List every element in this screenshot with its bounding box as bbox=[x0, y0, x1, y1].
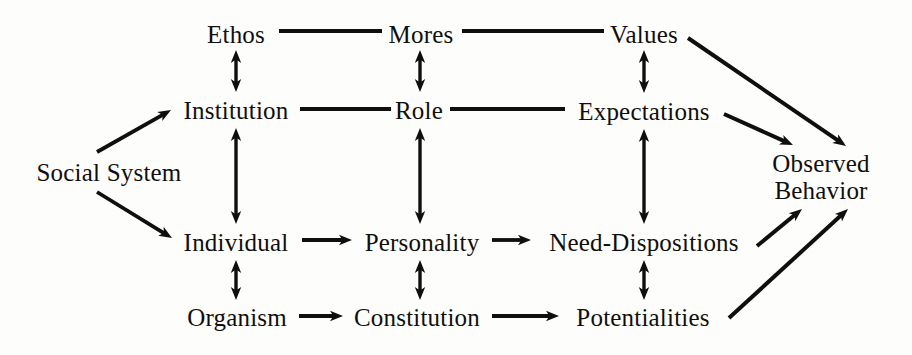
node-observed-behavior: ObservedBehavior bbox=[772, 150, 869, 204]
node-role: Role bbox=[395, 98, 443, 124]
node-label: Constitution bbox=[354, 305, 480, 331]
node-ethos: Ethos bbox=[207, 22, 265, 48]
edge-expectations-to-observed-behavior bbox=[724, 114, 786, 142]
node-organism: Organism bbox=[187, 305, 287, 331]
node-individual: Individual bbox=[184, 230, 289, 256]
node-social-system: Social System bbox=[37, 160, 182, 186]
node-mores: Mores bbox=[389, 22, 454, 48]
edge-social-system-to-institution bbox=[97, 114, 165, 152]
node-label: Behavior bbox=[772, 177, 869, 204]
node-personality: Personality bbox=[365, 230, 480, 256]
node-expectations: Expectations bbox=[578, 99, 710, 125]
edge-need-dispositions-to-observed-behavior bbox=[757, 214, 796, 246]
node-label: Institution bbox=[184, 98, 289, 124]
edge-potentialities-to-observed-behavior bbox=[729, 214, 843, 318]
node-label: Ethos bbox=[207, 22, 265, 48]
node-values: Values bbox=[610, 22, 678, 48]
node-label: Expectations bbox=[578, 99, 710, 125]
node-label: Organism bbox=[187, 305, 287, 331]
social-system-diagram: Social SystemEthosMoresValuesInstitution… bbox=[0, 0, 912, 355]
node-label: Individual bbox=[184, 230, 289, 256]
node-potentialities: Potentialities bbox=[576, 305, 709, 331]
node-label: Role bbox=[395, 98, 443, 124]
node-need-dispositions: Need-Dispositions bbox=[549, 230, 739, 256]
node-label: Personality bbox=[365, 230, 480, 256]
node-label: Potentialities bbox=[576, 305, 709, 331]
edge-social-system-to-individual bbox=[97, 192, 166, 234]
node-label: Social System bbox=[37, 160, 182, 186]
node-label: Need-Dispositions bbox=[549, 230, 739, 256]
node-label: Mores bbox=[389, 22, 454, 48]
node-constitution: Constitution bbox=[354, 305, 480, 331]
node-institution: Institution bbox=[184, 98, 289, 124]
edge-values-to-observed-behavior bbox=[688, 38, 840, 142]
node-label: Values bbox=[610, 22, 678, 48]
node-label: Observed bbox=[772, 150, 869, 177]
